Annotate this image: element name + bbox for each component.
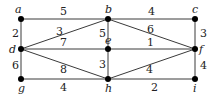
node-b [105, 16, 111, 22]
edge-weight-e-f: 1 [147, 36, 154, 49]
edge-weight-d-h: 8 [60, 63, 67, 76]
node-label-i: i [193, 82, 197, 95]
node-f [192, 46, 198, 52]
node-label-a: a [15, 3, 22, 16]
edge-weight-d-e: 7 [60, 36, 67, 49]
weighted-graph-diagram: 5423563716834442 abcdefghi [0, 0, 214, 97]
node-label-h: h [105, 82, 112, 95]
edge-weight-d-g: 6 [12, 59, 19, 72]
edge-weight-f-i: 4 [200, 59, 207, 72]
edge-weight-e-h: 3 [99, 58, 106, 71]
node-c [192, 16, 198, 22]
edge-weight-h-f: 4 [146, 63, 153, 76]
edge-weight-h-i: 2 [151, 81, 158, 94]
node-a [18, 16, 24, 22]
node-label-c: c [192, 3, 198, 16]
node-label-e: e [105, 34, 112, 47]
node-label-b: b [105, 3, 112, 16]
edge-weight-g-h: 4 [60, 81, 67, 94]
node-label-d: d [9, 43, 16, 56]
edge-weight-c-f: 3 [200, 27, 207, 40]
edge-weight-a-d: 2 [12, 27, 19, 40]
node-d [18, 46, 24, 52]
node-label-f: f [198, 43, 205, 56]
edge-weight-a-b: 5 [60, 5, 67, 18]
edge-weight-b-f: 6 [147, 23, 154, 36]
edge-weight-b-c: 4 [148, 5, 155, 18]
node-label-g: g [18, 82, 25, 95]
